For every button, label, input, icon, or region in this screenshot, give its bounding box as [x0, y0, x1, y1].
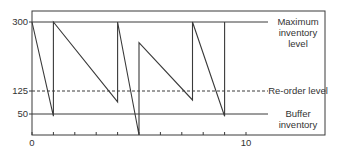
y-tick-125: 125 [2, 85, 28, 96]
buffer-label-line-2: inventory [270, 119, 326, 130]
max-label-line-3: level [270, 38, 326, 49]
max-label-line-2: inventory [270, 27, 326, 38]
reorder-level-label: Re-order level [268, 85, 328, 96]
y-tick-300: 300 [2, 16, 28, 27]
buffer-inventory-label: Buffer inventory [270, 108, 326, 130]
max-label-line-1: Maximum [270, 16, 326, 27]
x-tick-0: 0 [22, 137, 42, 148]
y-tick-50: 50 [2, 108, 28, 119]
inventory-sawtooth-line [32, 22, 225, 135]
max-inventory-label: Maximum inventory level [270, 16, 326, 49]
x-tick-10: 10 [236, 137, 256, 148]
buffer-label-line-1: Buffer [270, 108, 326, 119]
